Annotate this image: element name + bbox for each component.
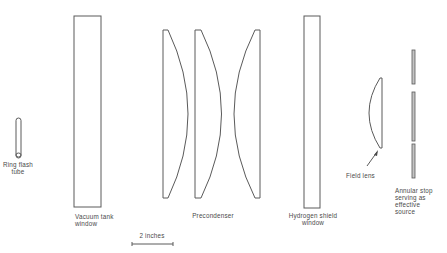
precondenser-lens-2: [195, 30, 222, 198]
ring-flash-label-line2: tube: [11, 168, 24, 175]
precondenser-lens-3: [234, 30, 260, 198]
annular-stop-label-line3: effective: [395, 201, 420, 208]
hydrogen-shield-window: [304, 16, 320, 208]
field-lens: [367, 78, 382, 166]
precondenser-lens-1: [163, 30, 188, 198]
vacuum-tank-label-line2: window: [74, 220, 97, 227]
annular-stop-segment-bottom: [412, 144, 415, 178]
precondenser-label: Precondenser: [192, 212, 234, 219]
field-lens-label: Field lens: [346, 172, 375, 179]
annular-stop: [412, 50, 415, 178]
hydrogen-shield-label-line2: window: [301, 219, 324, 226]
ring-flash-tube: [16, 118, 21, 158]
vacuum-tank-window: [74, 16, 101, 207]
annular-stop-segment-middle: [412, 92, 415, 141]
scale-bar: [132, 242, 173, 246]
ring-flash-tube-end: [16, 153, 21, 157]
scale-bar-label: 2 inches: [139, 232, 164, 239]
field-lens-shape: [369, 78, 382, 148]
optical-system-diagram: Ring flash tube Vacuum tank window Preco…: [0, 0, 447, 253]
vacuum-tank-label-line1: Vacuum tank: [75, 213, 114, 220]
field-lens-arrow-icon: [374, 150, 378, 156]
annular-stop-segment-top: [412, 50, 415, 84]
annular-stop-label-line4: source: [395, 208, 415, 215]
ring-flash-tube-body: [16, 118, 21, 158]
precondenser: [163, 30, 260, 198]
